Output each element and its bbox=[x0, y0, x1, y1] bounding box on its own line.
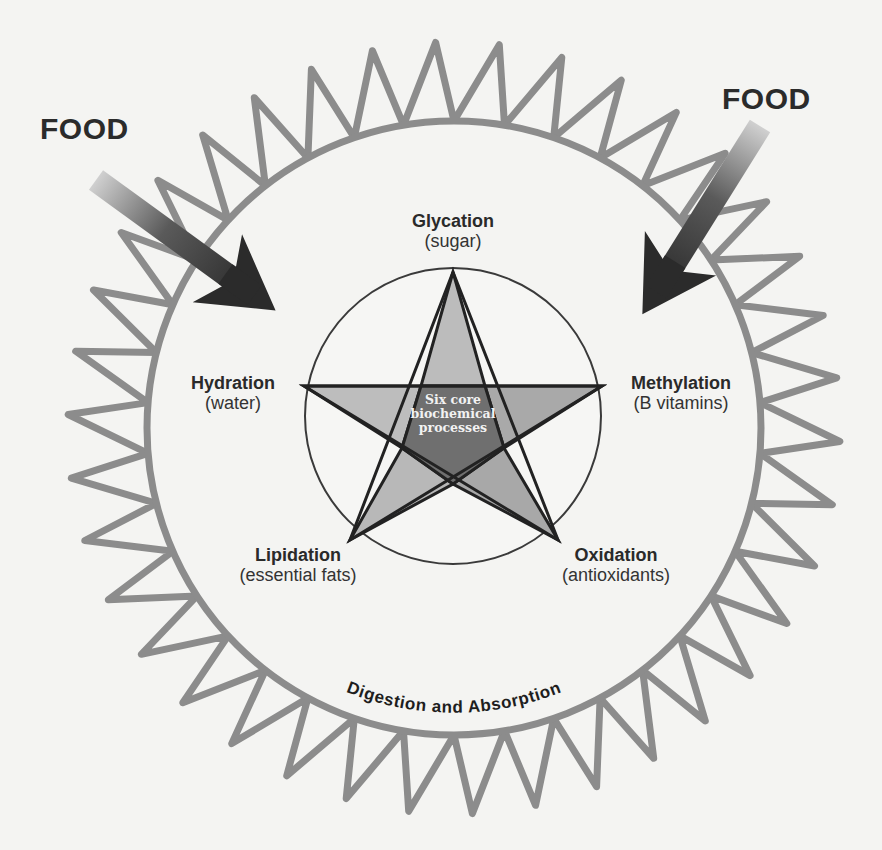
process-methylation: Methylation (B vitamins) bbox=[606, 374, 756, 414]
food-label-left: FOOD bbox=[40, 112, 129, 146]
process-name: Oxidation bbox=[536, 546, 696, 566]
process-nutrient: (sugar) bbox=[373, 232, 533, 252]
diagram-canvas: Digestion and Absorption FOOD FOOD Glyca… bbox=[0, 0, 882, 850]
process-lipidation: Lipidation (essential fats) bbox=[218, 546, 378, 586]
process-nutrient: (water) bbox=[170, 394, 296, 414]
process-hydration: Hydration (water) bbox=[170, 374, 296, 414]
center-label-line: processes bbox=[393, 421, 513, 435]
process-oxidation: Oxidation (antioxidants) bbox=[536, 546, 696, 586]
food-label-right: FOOD bbox=[722, 82, 811, 116]
process-nutrient: (antioxidants) bbox=[536, 566, 696, 586]
process-nutrient: (essential fats) bbox=[218, 566, 378, 586]
center-label-line: Six core bbox=[393, 393, 513, 407]
process-name: Lipidation bbox=[218, 546, 378, 566]
center-label: Six core biochemical processes bbox=[393, 393, 513, 435]
process-nutrient: (B vitamins) bbox=[606, 394, 756, 414]
process-glycation: Glycation (sugar) bbox=[373, 212, 533, 252]
process-name: Hydration bbox=[170, 374, 296, 394]
process-name: Glycation bbox=[373, 212, 533, 232]
process-name: Methylation bbox=[606, 374, 756, 394]
center-label-line: biochemical bbox=[393, 407, 513, 421]
